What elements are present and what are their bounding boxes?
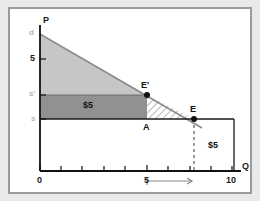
y-tick-label-5: 5 <box>30 53 35 63</box>
point-a-label: A <box>143 122 150 132</box>
right-box-amount-label: $5 <box>208 140 218 150</box>
tax-revenue-amount-label: $5 <box>83 100 93 110</box>
point-e-marker <box>191 116 197 122</box>
supply-demand-chart <box>10 9 250 192</box>
x-tick-label-0: 0 <box>37 175 42 185</box>
x-tick-label-5: 5 <box>144 175 149 185</box>
point-e-prime-marker <box>144 92 150 98</box>
y-axis-label: P <box>43 15 49 25</box>
tax-revenue-region <box>40 95 147 119</box>
x-axis-label: Q <box>242 161 249 171</box>
demand-intercept-label: d <box>29 28 34 37</box>
deadweight-loss-region <box>147 95 194 119</box>
quantity-shift-arrow <box>147 177 192 185</box>
point-e-prime-label: E' <box>141 80 149 90</box>
figure-frame: P Q d 5 s' s 0 5 10 E' E A $5 $5 <box>0 0 260 201</box>
y-tick-label-s-prime: s' <box>29 89 35 98</box>
x-tick-label-10: 10 <box>226 175 236 185</box>
y-tick-label-s: s <box>31 114 35 123</box>
chart-plot-area: P Q d 5 s' s 0 5 10 E' E A $5 $5 <box>10 9 250 192</box>
point-e-label: E <box>190 104 196 114</box>
